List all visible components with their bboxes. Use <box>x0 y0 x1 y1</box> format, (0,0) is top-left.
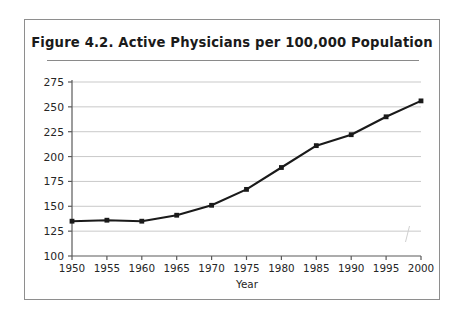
figure-card: Figure 4.2. Active Physicians per 100,00… <box>24 19 440 300</box>
data-point-marker <box>419 98 424 103</box>
x-tick-label: 1980 <box>268 262 294 274</box>
line-chart-svg: 100125150175200225250275 195019551960196… <box>25 20 441 301</box>
chart-x-axis: 1950195519601965197019751980198519901995… <box>59 256 434 274</box>
y-tick-label: 125 <box>43 225 64 238</box>
x-tick-label: 1970 <box>198 262 224 274</box>
data-point-marker <box>174 213 179 218</box>
y-tick-label: 175 <box>43 175 64 188</box>
data-point-marker <box>314 143 319 148</box>
x-tick-label: 1995 <box>373 262 399 274</box>
y-tick-label: 250 <box>43 101 64 114</box>
data-point-markers <box>70 98 424 223</box>
x-tick-label: 1985 <box>303 262 329 274</box>
y-tick-label: 150 <box>43 200 64 213</box>
chart-plot-area: 100125150175200225250275 195019551960196… <box>25 20 441 301</box>
x-tick-label: 2000 <box>408 262 434 274</box>
x-tick-label: 1975 <box>233 262 259 274</box>
x-tick-label: 1990 <box>338 262 364 274</box>
data-point-marker <box>349 132 354 137</box>
x-tick-label: 1955 <box>94 262 120 274</box>
chart-gridlines <box>72 82 421 231</box>
y-tick-label: 225 <box>43 126 64 139</box>
y-tick-label: 200 <box>43 151 64 164</box>
data-point-marker <box>105 218 110 223</box>
chart-y-axis: 100125150175200225250275 <box>43 76 72 263</box>
x-tick-label: 1950 <box>59 262 85 274</box>
data-point-marker <box>70 219 75 224</box>
data-line <box>72 101 421 221</box>
y-tick-label: 275 <box>43 76 64 89</box>
x-tick-label: 1965 <box>163 262 189 274</box>
x-tick-label: 1960 <box>129 262 155 274</box>
data-point-marker <box>384 114 389 119</box>
x-axis-title: Year <box>235 278 259 290</box>
data-point-marker <box>209 203 214 208</box>
data-point-marker <box>279 165 284 170</box>
data-point-marker <box>244 187 249 192</box>
data-point-marker <box>139 219 144 224</box>
